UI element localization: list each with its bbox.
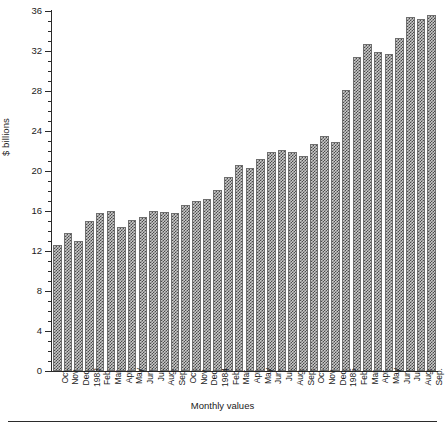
bar <box>181 205 190 371</box>
bar <box>288 152 297 371</box>
y-tick-major <box>45 171 52 172</box>
bar <box>213 190 222 371</box>
bar <box>203 199 212 371</box>
bar <box>107 211 116 371</box>
bar <box>96 213 105 371</box>
bar <box>235 165 244 371</box>
bar <box>299 156 308 371</box>
bar <box>331 142 340 371</box>
bar <box>192 201 201 371</box>
y-tick-label: 0 <box>0 366 42 376</box>
y-tick-major <box>45 371 52 372</box>
bar <box>278 150 287 371</box>
bar <box>139 217 148 371</box>
bar <box>246 168 255 371</box>
bar <box>385 54 394 371</box>
bar <box>374 52 383 371</box>
y-tick-label-text: 36 <box>4 6 42 16</box>
bar <box>85 221 94 371</box>
y-tick-label: 20 <box>0 166 42 176</box>
bar <box>353 57 362 371</box>
bar <box>342 90 351 371</box>
bar <box>320 136 329 371</box>
bar <box>171 213 180 371</box>
bar <box>53 245 62 371</box>
y-axis-title: $ billions <box>0 56 18 156</box>
y-tick-label-text: 32 <box>4 46 42 56</box>
plot-area <box>52 11 437 371</box>
y-tick-label: 8 <box>0 286 42 296</box>
y-tick-major <box>45 331 52 332</box>
y-tick-label: 28 <box>0 86 42 96</box>
bar <box>427 15 436 371</box>
bar <box>406 17 415 371</box>
y-tick-label: 4 <box>0 326 42 336</box>
y-tick-label: 12 <box>0 246 42 256</box>
bar <box>417 19 426 371</box>
bar <box>363 44 372 371</box>
bar <box>160 212 169 371</box>
y-tick-label-text: 0 <box>4 366 42 376</box>
y-tick-label-text: 12 <box>4 246 42 256</box>
y-tick-major <box>45 91 52 92</box>
y-tick-major <box>45 51 52 52</box>
y-tick-major <box>45 251 52 252</box>
bar <box>64 233 73 371</box>
bar <box>149 211 158 371</box>
y-tick-major <box>45 131 52 132</box>
bar-chart: $ billions 04812162024283236 Oct.Nov.Dec… <box>0 0 445 429</box>
y-tick-label: 32 <box>0 46 42 56</box>
y-tick-label: 24 <box>0 126 42 136</box>
bar <box>224 177 233 371</box>
bar <box>74 241 83 371</box>
bar <box>256 159 265 371</box>
bar <box>310 144 319 371</box>
y-tick-label: 36 <box>0 6 42 16</box>
y-tick-major <box>45 11 52 12</box>
y-tick-major <box>45 211 52 212</box>
y-tick-major <box>45 291 52 292</box>
y-tick-label-text: 16 <box>4 206 42 216</box>
y-tick-label-text: 28 <box>4 86 42 96</box>
bar <box>117 227 126 371</box>
y-tick-label-text: 24 <box>4 126 42 136</box>
bar <box>128 220 137 371</box>
y-tick-label-text: 20 <box>4 166 42 176</box>
x-axis-title: Monthly values <box>0 400 445 411</box>
y-tick-label-text: 8 <box>4 286 42 296</box>
y-tick-label: 16 <box>0 206 42 216</box>
bar <box>395 38 404 371</box>
bar <box>267 152 276 371</box>
footer-divider <box>8 421 437 422</box>
y-tick-label-text: 4 <box>4 326 42 336</box>
